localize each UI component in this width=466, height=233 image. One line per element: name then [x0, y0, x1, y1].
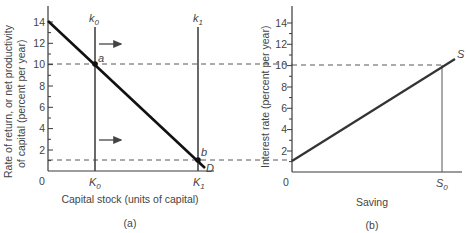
svg-text:8: 8	[281, 81, 287, 93]
panel-a-ylabel-line2: of capital (percent per year)	[15, 40, 27, 168]
k0-label: k0	[89, 12, 100, 27]
panel-b-caption: (b)	[366, 219, 379, 231]
svg-text:2: 2	[281, 145, 287, 157]
figure: Rate of return, or net productivity of c…	[0, 0, 466, 233]
panel-a-ylabel-line1: Rate of return, or net productivity	[2, 24, 14, 178]
curve-D-label: D	[206, 162, 214, 174]
point-a	[92, 61, 98, 67]
K0-label: K0	[89, 176, 101, 191]
demand-curve-D	[48, 21, 205, 168]
k1-label: k1	[193, 12, 203, 27]
svg-text:8: 8	[39, 80, 45, 92]
point-b	[195, 157, 201, 163]
svg-text:14: 14	[275, 17, 287, 29]
panel-a-y-tick-labels: 14 12 10 8 6 4 2	[33, 16, 45, 156]
point-b-label: b	[201, 146, 207, 158]
panel-a-xlabel: Capital stock (units of capital)	[61, 193, 198, 205]
panel-b-y-ticks	[287, 23, 292, 162]
panel-a-caption: (a)	[124, 217, 137, 229]
svg-text:12: 12	[275, 38, 287, 50]
svg-text:6: 6	[39, 101, 45, 113]
svg-text:6: 6	[281, 102, 287, 114]
svg-text:10: 10	[33, 58, 45, 70]
curve-S-label: S	[457, 48, 465, 60]
svg-text:4: 4	[39, 122, 45, 134]
svg-text:4: 4	[281, 123, 287, 135]
svg-text:2: 2	[39, 144, 45, 156]
panel-b-y-tick-labels: 14 12 10 8 6 4 2	[275, 17, 287, 157]
K1-label: K1	[193, 176, 205, 191]
panel-b-ylabel: Interest rate (percent per year)	[259, 26, 271, 168]
panel-b: Interest rate (percent per year) 14 12 1…	[259, 6, 465, 231]
panel-a: Rate of return, or net productivity of c…	[2, 6, 292, 229]
panel-a-y-ticks	[48, 22, 53, 161]
panel-b-xlabel: Saving	[356, 196, 388, 208]
saving-curve-S	[292, 59, 455, 161]
svg-text:10: 10	[275, 59, 287, 71]
panel-a-origin: 0	[39, 175, 45, 187]
point-a-label: a	[98, 52, 104, 64]
svg-text:14: 14	[33, 16, 45, 28]
panel-b-origin: 0	[283, 176, 289, 188]
svg-text:12: 12	[33, 37, 45, 49]
S0-label: S0	[436, 177, 448, 192]
